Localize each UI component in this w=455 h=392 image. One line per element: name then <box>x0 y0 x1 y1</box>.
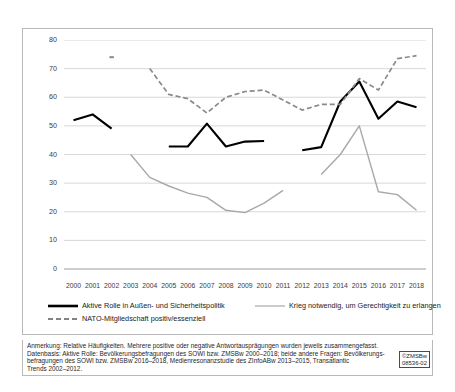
y-axis-labels: 01020304050607080 <box>23 29 64 291</box>
y-tick-label: 40 <box>49 151 57 159</box>
series-line-0 <box>302 82 416 151</box>
credit-line-2: 08536-02 <box>402 360 427 367</box>
legend-label-nato: NATO-Mitgliedschaft positiv/essenziell <box>82 314 205 323</box>
x-tick-label: 2010 <box>256 282 271 289</box>
legend-swatch-solid-gray-icon <box>255 302 285 310</box>
x-tick-label: 2014 <box>333 282 348 289</box>
chart-frame: 01020304050607080 2000200120022003200420… <box>22 28 433 335</box>
x-tick-label: 2003 <box>123 282 138 289</box>
x-tick-label: 2008 <box>218 282 233 289</box>
series-line-2 <box>150 56 417 113</box>
y-tick-label: 50 <box>49 122 57 130</box>
x-tick-label: 2013 <box>314 282 329 289</box>
x-tick-label: 2000 <box>66 282 81 289</box>
legend-label-krieg-notwendig: Krieg notwendig, um Gerechtigkeit zu erl… <box>289 301 441 310</box>
x-tick-label: 2005 <box>161 282 176 289</box>
series-line-0 <box>169 124 264 147</box>
series-line-0 <box>74 114 112 128</box>
chart-note: Anmerkung: Relative Häufigkeiten. Mehrer… <box>22 340 433 376</box>
credit-line-1: ©ZMSBw <box>402 353 427 360</box>
x-axis-labels: 2000200120022003200420052006200720082009… <box>64 282 426 298</box>
legend-swatch-dashed-gray-icon <box>48 315 78 323</box>
x-tick-label: 2018 <box>409 282 424 289</box>
y-tick-label: 60 <box>49 93 57 101</box>
note-line-2: Datenbasis: Aktive Rolle: Bevölkerungsbe… <box>27 350 428 358</box>
y-tick-label: 70 <box>49 65 57 73</box>
x-tick-label: 2011 <box>276 282 291 289</box>
x-tick-label: 2016 <box>371 282 386 289</box>
x-tick-label: 2017 <box>390 282 405 289</box>
y-tick-label: 0 <box>53 265 57 273</box>
plot-area <box>64 40 426 280</box>
x-tick-label: 2001 <box>85 282 100 289</box>
chart-page: 01020304050607080 2000200120022003200420… <box>0 0 455 392</box>
x-tick-label: 2006 <box>180 282 195 289</box>
x-tick-label: 2004 <box>142 282 157 289</box>
y-tick-label: 20 <box>49 208 57 216</box>
legend-item-nato: NATO-Mitgliedschaft positiv/essenziell <box>48 314 205 323</box>
x-tick-label: 2015 <box>352 282 367 289</box>
x-tick-label: 2012 <box>295 282 310 289</box>
y-tick-label: 10 <box>49 236 57 244</box>
chart-canvas <box>64 40 426 282</box>
legend-swatch-solid-black-icon <box>48 302 78 310</box>
x-tick-label: 2009 <box>237 282 252 289</box>
legend-item-aktive-rolle: Aktive Rolle in Außen- und Sicherheitspo… <box>48 301 225 310</box>
legend-item-krieg-notwendig: Krieg notwendig, um Gerechtigkeit zu erl… <box>255 301 441 310</box>
note-line-3: befragungen des SOWI bzw. ZMSBw 2016–201… <box>27 357 428 365</box>
x-tick-label: 2007 <box>199 282 214 289</box>
y-tick-label: 30 <box>49 179 57 187</box>
legend-label-aktive-rolle: Aktive Rolle in Außen- und Sicherheitspo… <box>82 301 225 310</box>
credit-box: ©ZMSBw 08536-02 <box>399 351 430 368</box>
chart-legend: Aktive Rolle in Außen- und Sicherheitspo… <box>22 299 433 331</box>
y-tick-label: 80 <box>49 36 57 44</box>
note-line-4: Trends 2002–2012. <box>27 365 428 373</box>
x-tick-label: 2002 <box>104 282 119 289</box>
series-line-1 <box>321 126 416 210</box>
note-line-1: Anmerkung: Relative Häufigkeiten. Mehrer… <box>27 342 428 350</box>
